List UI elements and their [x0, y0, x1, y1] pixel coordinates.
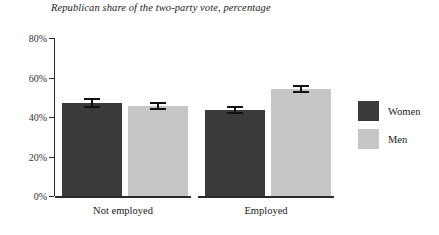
legend-label-women: Women — [388, 106, 420, 117]
error-bar-cap-bottom — [227, 112, 243, 114]
legend-swatch-women — [358, 101, 379, 121]
y-tick-label: 80% — [29, 33, 47, 44]
y-tick-label: 40% — [29, 112, 47, 123]
bar-men-employed — [271, 89, 331, 196]
error-bar-cap-bottom — [150, 108, 166, 110]
legend-item-men: Men — [358, 129, 407, 149]
y-tick-label: 20% — [29, 151, 47, 162]
chart-figure: Republican share of the two-party vote, … — [0, 0, 439, 235]
chart-title: Republican share of the two-party vote, … — [51, 2, 271, 13]
error-bar-cap-top — [150, 102, 166, 104]
bar-women-employed — [205, 110, 265, 196]
error-bar-cap-top — [293, 85, 309, 87]
error-bar-cap-top — [227, 106, 243, 108]
error-bar-cap-bottom — [293, 91, 309, 93]
y-tick-label: 60% — [29, 72, 47, 83]
group-baseline — [55, 196, 191, 198]
error-bar-cap-bottom — [84, 106, 100, 108]
y-axis-line — [54, 38, 55, 196]
group-label-not-employed: Not employed — [93, 205, 153, 216]
y-tick-mark — [49, 117, 54, 118]
error-bar-cap-top — [84, 98, 100, 100]
plot-area: 0%20%40%60%80% Not employedEmployed — [54, 30, 344, 196]
y-tick-label: 0% — [34, 191, 47, 202]
y-tick-mark — [49, 78, 54, 79]
bar-men-not-employed — [128, 106, 188, 196]
y-tick-mark — [49, 196, 54, 197]
bar-women-not-employed — [62, 103, 122, 196]
legend-swatch-men — [358, 129, 379, 149]
legend-label-men: Men — [388, 134, 407, 145]
y-tick-mark — [49, 157, 54, 158]
group-label-employed: Employed — [244, 205, 287, 216]
legend-item-women: Women — [358, 101, 420, 121]
y-tick-mark — [49, 38, 54, 39]
group-baseline — [198, 196, 334, 198]
